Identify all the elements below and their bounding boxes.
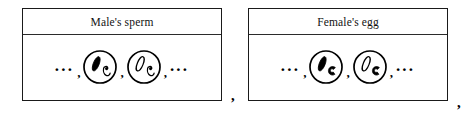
sperm-cell-1	[82, 49, 118, 85]
comma-after-last-panel: ,	[457, 95, 461, 110]
sperm-separator-2: ,	[118, 66, 125, 79]
panel-title-female-egg: Female's egg	[317, 16, 379, 28]
panel-header-female-egg: Female's egg	[249, 9, 447, 35]
egg-separator-3: ,	[388, 66, 395, 79]
panel-female-egg: Female's egg ... ,	[248, 8, 448, 101]
egg-cell-2	[352, 49, 388, 85]
gamete-comparison-figure: Male's sperm ... ,	[0, 0, 476, 117]
panel-title-male-sperm: Male's sperm	[91, 16, 154, 28]
sperm-separator-3: ,	[162, 66, 169, 79]
egg-separator-2: ,	[344, 66, 351, 79]
egg-separator-1: ,	[301, 66, 308, 79]
sperm-trailing-ellipsis: ...	[169, 57, 190, 74]
egg-sequence: ... , ,	[280, 49, 416, 85]
sperm-leading-ellipsis: ...	[54, 57, 75, 74]
sperm-separator-1: ,	[75, 66, 82, 79]
panel-header-male-sperm: Male's sperm	[23, 9, 221, 35]
egg-cell-1	[308, 49, 344, 85]
panel-body-female-egg: ... , ,	[249, 35, 447, 99]
panel-male-sperm: Male's sperm ... ,	[22, 8, 222, 101]
comma-between-panels: ,	[231, 88, 235, 103]
sperm-sequence: ... , ,	[54, 49, 190, 85]
egg-leading-ellipsis: ...	[280, 57, 301, 74]
sperm-cell-2	[126, 49, 162, 85]
egg-trailing-ellipsis: ...	[395, 57, 416, 74]
panel-body-male-sperm: ... , ,	[23, 35, 221, 99]
